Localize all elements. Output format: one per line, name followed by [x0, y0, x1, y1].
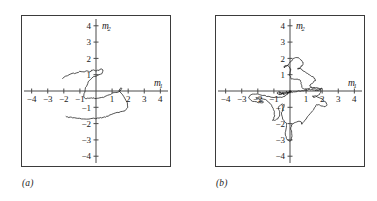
svg-text:−4: −4	[221, 94, 231, 104]
svg-text:−1: −1	[81, 103, 91, 113]
svg-text:−4: −4	[81, 151, 91, 161]
svg-text:1: 1	[354, 82, 357, 89]
svg-text:3: 3	[142, 94, 147, 104]
figure-container: −4−3−2−112344321−1−2−3−4m1m2 (a) −4−3−2−…	[0, 0, 377, 201]
svg-text:−3: −3	[81, 135, 91, 145]
svg-text:4: 4	[352, 94, 357, 104]
svg-text:3: 3	[87, 37, 92, 47]
svg-text:−3: −3	[43, 94, 53, 104]
svg-text:−3: −3	[237, 94, 247, 104]
svg-text:3: 3	[281, 37, 286, 47]
panel-caption-b: (b)	[216, 178, 228, 188]
svg-text:−2: −2	[59, 94, 69, 104]
svg-text:1: 1	[160, 82, 163, 89]
svg-text:1: 1	[281, 70, 286, 80]
svg-text:2: 2	[302, 25, 306, 32]
svg-text:2: 2	[108, 25, 112, 32]
svg-text:1: 1	[110, 94, 115, 104]
svg-text:−4: −4	[27, 94, 37, 104]
panel-caption-a: (a)	[22, 178, 34, 188]
svg-text:1: 1	[304, 94, 309, 104]
svg-text:−4: −4	[275, 151, 285, 161]
svg-text:4: 4	[281, 21, 286, 31]
svg-text:2: 2	[126, 94, 131, 104]
plot-frame-b: −4−3−2−112344321−1−2−3−4m1m2	[215, 15, 365, 167]
svg-text:−2: −2	[81, 119, 91, 129]
plot-frame-a: −4−3−2−112344321−1−2−3−4m1m2	[21, 15, 171, 167]
plot-area-b: −4−3−2−112344321−1−2−3−4m1m2	[216, 16, 364, 166]
plot-area-a: −4−3−2−112344321−1−2−3−4m1m2	[22, 16, 170, 166]
svg-text:4: 4	[87, 21, 92, 31]
svg-text:4: 4	[158, 94, 163, 104]
svg-text:2: 2	[281, 54, 286, 64]
svg-text:3: 3	[336, 94, 341, 104]
figure-panel-a: −4−3−2−112344321−1−2−3−4m1m2 (a)	[0, 0, 186, 201]
svg-text:−3: −3	[275, 135, 285, 145]
svg-text:2: 2	[87, 54, 92, 64]
figure-panel-b: −4−3−2−112344321−1−2−3−4m1m2 (b)	[189, 0, 377, 201]
